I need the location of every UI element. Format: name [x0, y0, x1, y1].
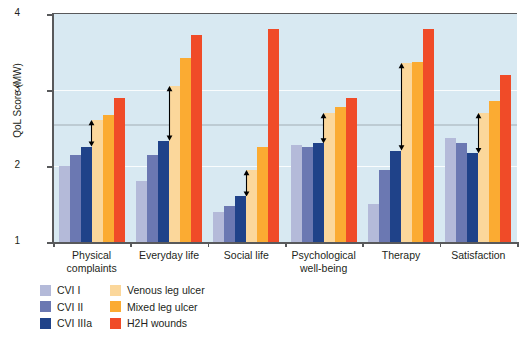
bar-4-4 — [412, 62, 423, 242]
gridline-3 — [53, 90, 517, 91]
category-label-5: Satisfaction — [440, 249, 517, 262]
legend-swatch-icon — [110, 301, 121, 312]
bar-0-0 — [59, 166, 70, 242]
legend-item-cvi-2[interactable]: CVI IIIa — [40, 316, 92, 330]
bar-2-1 — [224, 206, 235, 242]
legend-item-wounds-0[interactable]: Venous leg ulcer — [110, 283, 205, 297]
y-tick-label-wrap-1: 1 — [0, 235, 45, 246]
legend-label: CVI I — [57, 284, 80, 296]
x-tick-0 — [53, 242, 55, 247]
y-tick-label-wrap-3: 3 — [0, 83, 45, 94]
bar-4-1 — [379, 170, 390, 242]
bar-2-2 — [235, 196, 246, 242]
bar-5-1 — [456, 143, 467, 242]
legend-swatch-icon — [110, 318, 121, 329]
y-tick-label-1: 1 — [0, 235, 20, 246]
legend-label: Mixed leg ulcer — [127, 301, 198, 313]
double-arrow-5 — [474, 113, 483, 153]
y-axis-title: QoL Score (MW) — [12, 41, 23, 161]
category-label-1: Everyday life — [130, 249, 207, 262]
double-arrow-1 — [165, 86, 174, 141]
bar-4-0 — [368, 204, 379, 242]
y-tick-4 — [47, 14, 52, 16]
double-arrow-2 — [242, 170, 251, 197]
category-label-line: Psychological — [285, 249, 362, 262]
y-tick-2 — [47, 166, 52, 168]
category-label-line: Satisfaction — [440, 249, 517, 262]
bar-5-2 — [467, 153, 478, 242]
legend-swatch-icon — [40, 285, 51, 296]
y-tick-1 — [47, 242, 52, 244]
x-tick-5 — [440, 242, 442, 247]
bar-2-4 — [257, 147, 268, 242]
category-label-0: Physicalcomplaints — [53, 249, 130, 274]
bar-0-1 — [70, 155, 81, 242]
legend-item-cvi-1[interactable]: CVI II — [40, 300, 92, 314]
legend-label: Venous leg ulcer — [127, 284, 205, 296]
y-tick-label-wrap-2: 2 — [0, 159, 45, 170]
double-arrow-0 — [87, 120, 96, 147]
qol-score-bar-chart: 1234 QoL Score (MW) PhysicalcomplaintsEv… — [0, 0, 531, 344]
x-tick-4 — [362, 242, 364, 247]
bar-2-5 — [268, 29, 279, 242]
legend-swatch-icon — [40, 318, 51, 329]
category-label-line: Therapy — [362, 249, 439, 262]
bar-1-2 — [158, 141, 169, 242]
bar-0-2 — [81, 147, 92, 242]
bar-0-4 — [103, 115, 114, 242]
legend-label: CVI II — [57, 301, 83, 313]
bar-4-5 — [423, 29, 434, 242]
legend-column-cvi: CVI ICVI IICVI IIIa — [40, 283, 92, 333]
legend-item-wounds-2[interactable]: H2H wounds — [110, 316, 205, 330]
category-label-2: Social life — [208, 249, 285, 262]
bar-1-5 — [191, 35, 202, 242]
legend-label: CVI IIIa — [57, 317, 92, 329]
bar-5-5 — [500, 75, 511, 242]
bar-3-5 — [346, 98, 357, 242]
bar-3-0 — [291, 145, 302, 242]
category-label-line: Everyday life — [130, 249, 207, 262]
bar-3-4 — [335, 107, 346, 242]
bar-4-2 — [390, 151, 401, 242]
y-axis-line — [52, 13, 54, 243]
bar-2-0 — [213, 212, 224, 242]
bar-1-0 — [136, 181, 147, 242]
category-label-3: Psychologicalwell-being — [285, 249, 362, 274]
plot-area — [53, 14, 517, 242]
legend-item-wounds-1[interactable]: Mixed leg ulcer — [110, 300, 205, 314]
legend-label: H2H wounds — [127, 317, 187, 329]
legend-column-wounds: Venous leg ulcerMixed leg ulcerH2H wound… — [110, 283, 205, 333]
bar-1-1 — [147, 155, 158, 242]
bar-3-1 — [302, 147, 313, 242]
double-arrow-3 — [319, 113, 328, 143]
category-label-line: well-being — [285, 262, 362, 275]
bar-3-2 — [313, 143, 324, 242]
bar-5-4 — [489, 101, 500, 242]
x-tick-3 — [285, 242, 287, 247]
legend-swatch-icon — [40, 301, 51, 312]
y-tick-3 — [47, 90, 52, 92]
category-label-4: Therapy — [362, 249, 439, 262]
x-tick-6 — [517, 242, 519, 247]
category-label-line: complaints — [53, 262, 130, 275]
bar-1-4 — [180, 58, 191, 242]
x-tick-2 — [208, 242, 210, 247]
y-tick-label-2: 2 — [0, 159, 20, 170]
bar-5-0 — [445, 138, 456, 242]
legend-swatch-icon — [110, 285, 121, 296]
y-tick-label-wrap-4: 4 — [0, 7, 45, 18]
legend-item-cvi-0[interactable]: CVI I — [40, 283, 92, 297]
bar-0-5 — [114, 98, 125, 242]
double-arrow-4 — [397, 63, 406, 150]
category-label-line: Physical — [53, 249, 130, 262]
category-label-line: Social life — [208, 249, 285, 262]
x-tick-1 — [130, 242, 132, 247]
y-tick-label-4: 4 — [0, 7, 20, 18]
